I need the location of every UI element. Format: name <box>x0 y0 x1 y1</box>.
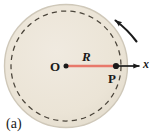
physics-figure-rotating-disk: O R P x (a) <box>0 0 156 139</box>
center-point-dot <box>64 64 69 69</box>
rim-point-label-P: P <box>108 72 116 85</box>
rim-point-dot <box>113 63 119 69</box>
figure-caption: (a) <box>6 117 22 131</box>
x-axis-label: x <box>143 58 149 70</box>
radius-label-R: R <box>82 50 91 63</box>
rotating-disk-diagram <box>0 0 156 139</box>
center-label-O: O <box>50 60 60 73</box>
